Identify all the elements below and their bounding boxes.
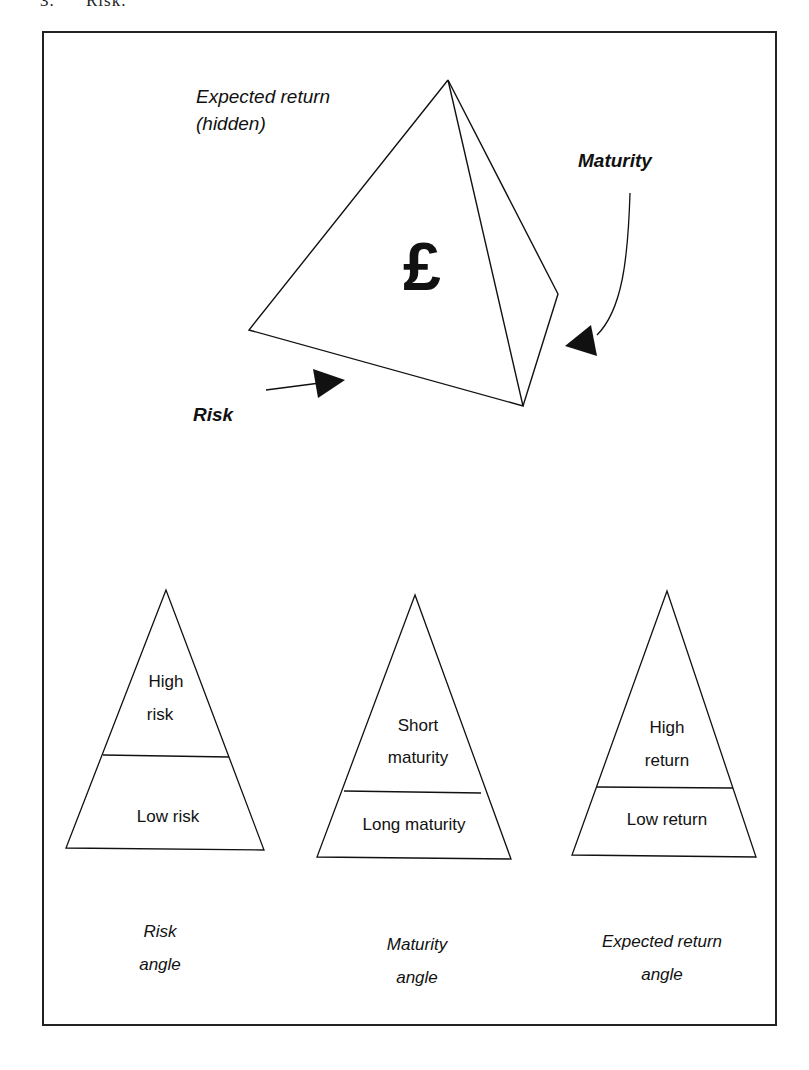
high-return-label-line2: return xyxy=(645,751,689,770)
maturity-arrow xyxy=(565,193,630,356)
risk-angle-caption-line1: Risk xyxy=(143,922,178,941)
maturity-angle-pyramid: Short maturity Long maturity Maturity an… xyxy=(317,595,511,987)
high-risk-label-line1: High xyxy=(149,672,184,691)
maturity-angle-caption-line2: angle xyxy=(396,968,438,987)
pyramid-divider xyxy=(103,755,229,757)
expected-return-hidden-label: (hidden) xyxy=(196,113,266,134)
tetrahedron-front-face xyxy=(249,80,523,406)
expected-return-angle-caption-line1: Expected return xyxy=(602,932,722,951)
tetrahedron-side-face xyxy=(448,80,558,406)
maturity-label: Maturity xyxy=(578,150,653,171)
risk-pyramid-diagram: £ Expected return (hidden) Maturity Risk… xyxy=(0,0,809,1070)
maturity-arrowhead xyxy=(565,325,597,356)
pyramid-divider xyxy=(344,791,481,793)
maturity-angle-caption-line1: Maturity xyxy=(387,935,449,954)
pyramid-divider xyxy=(597,787,733,788)
risk-angle-caption-line2: angle xyxy=(139,955,181,974)
risk-angle-pyramid: High risk Low risk Risk angle xyxy=(66,590,264,974)
low-risk-label: Low risk xyxy=(137,807,200,826)
expected-return-angle-caption-line2: angle xyxy=(641,965,683,984)
expected-return-angle-pyramid: High return Low return Expected return a… xyxy=(572,591,756,984)
high-return-label-line1: High xyxy=(650,718,685,737)
risk-label: Risk xyxy=(193,404,235,425)
risk-arrow-shaft xyxy=(266,383,320,390)
risk-arrow xyxy=(266,369,345,398)
risk-arrowhead xyxy=(313,369,345,398)
maturity-arrow-shaft xyxy=(597,193,630,335)
low-return-label: Low return xyxy=(627,810,707,829)
pound-symbol: £ xyxy=(403,228,441,304)
expected-return-label: Expected return xyxy=(196,86,330,107)
short-maturity-label-line1: Short xyxy=(398,716,439,735)
long-maturity-label: Long maturity xyxy=(363,815,466,834)
high-risk-label-line2: risk xyxy=(147,705,174,724)
short-maturity-label-line2: maturity xyxy=(388,748,449,767)
